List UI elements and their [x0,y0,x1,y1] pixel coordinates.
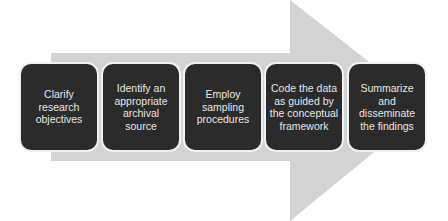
step-label: Employ sampling procedures [197,88,250,126]
step-identify-source: Identify an appropriate archival source [103,64,179,150]
step-label: Summarize and disseminate the findings [359,82,415,132]
step-employ-sampling: Employ sampling procedures [185,64,261,150]
step-code-data: Code the data as guided by the conceptua… [266,64,342,150]
step-label: Code the data as guided by the conceptua… [270,82,338,132]
step-label: Identify an appropriate archival source [106,82,176,132]
step-clarify-objectives: Clarify research objectives [21,64,97,150]
step-label: Clarify research objectives [36,88,83,126]
step-summarize-findings: Summarize and disseminate the findings [349,64,425,150]
